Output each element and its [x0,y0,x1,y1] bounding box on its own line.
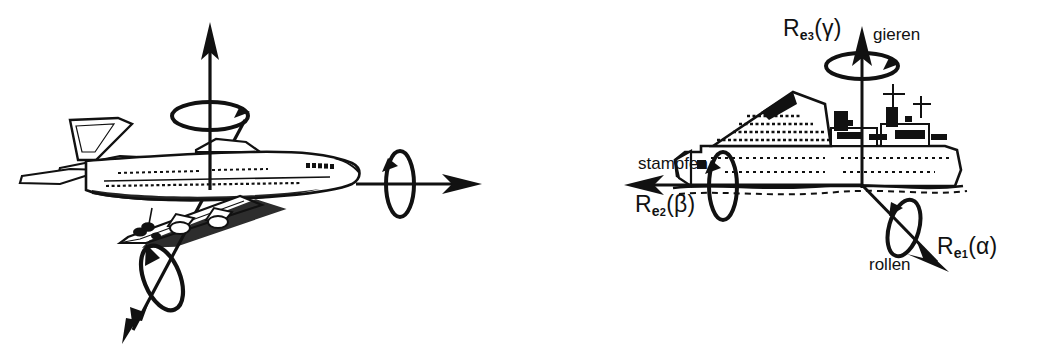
pitch-R: R [635,191,652,217]
yaw-close-paren: ) [834,15,842,41]
pitch-name-label: stampfen [638,155,708,172]
roll-rotation-symbol: Re1(α) [937,235,997,260]
yaw-angle: γ [822,15,834,41]
aircraft-diagram-svg [0,0,525,355]
pitch-close-paren: ) [687,191,695,217]
roll-angle: α [976,233,990,259]
yaw-axis-index: e3 [800,27,814,43]
ship-diagram-panel: Re3(γ) gieren stampfen Re2(β) rollen Re1… [525,0,1050,355]
yaw-rotation-symbol: Re3(γ) [783,17,842,42]
yaw-R: R [783,15,800,41]
pitch-axis-index: e2 [652,203,666,219]
yaw-name-label: gieren [873,26,920,43]
roll-open-paren: ( [968,233,976,259]
pitch-angle: β [674,191,687,217]
roll-name-label: rollen [869,256,911,273]
airliner-illustration [20,118,360,247]
ship-diagram-svg [525,0,1050,355]
ship-illustration [673,84,967,194]
aircraft-diagram-panel [0,0,525,355]
yaw-open-paren: ( [814,15,822,41]
roll-R: R [937,233,954,259]
roll-close-paren: ) [990,233,998,259]
figure-canvas: Re3(γ) gieren stampfen Re2(β) rollen Re1… [0,0,1050,355]
aircraft-longitudinal-axis [356,151,482,217]
pitch-rotation-symbol: Re2(β) [635,193,695,218]
roll-axis-index: e1 [954,245,968,261]
pitch-open-paren: ( [666,191,674,217]
